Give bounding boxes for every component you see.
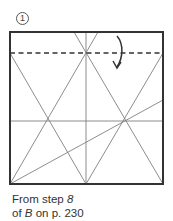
- step-caption: From step 8 of B on p. 230: [12, 192, 172, 220]
- diagonal-crease-left-up: [10, 32, 98, 184]
- crease-diagram: [0, 0, 173, 221]
- fold-down-arrow-icon: [113, 36, 122, 68]
- shallow-diagonal-crease: [10, 100, 163, 184]
- crease-lines: [10, 32, 163, 184]
- caption-line-1: From step 8: [12, 192, 172, 206]
- paper-square-border: [10, 32, 163, 184]
- caption-line-2: of B on p. 230: [12, 206, 172, 220]
- diagonal-crease-right-up: [74, 32, 163, 184]
- step-reference: 8: [67, 193, 73, 205]
